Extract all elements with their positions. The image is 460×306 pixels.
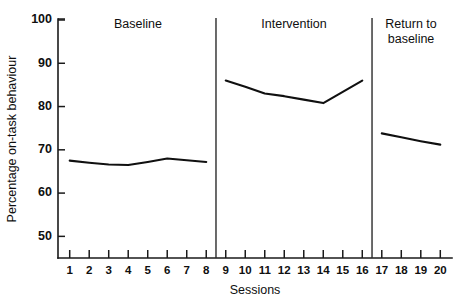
y-axis-title: Percentage on-task behaviour <box>5 56 19 223</box>
y-axis-tick-label: 80 <box>38 99 52 113</box>
line-chart-canvas: 1009080706050123456789101112131415161718… <box>0 0 460 306</box>
phase-label: Return to <box>385 17 436 31</box>
x-axis-tick-label: 18 <box>395 264 408 276</box>
x-axis-tick-label: 11 <box>259 264 272 276</box>
x-axis-tick-label: 10 <box>239 264 252 276</box>
phase-label: baseline <box>388 32 435 46</box>
x-axis-tick-label: 4 <box>125 264 132 276</box>
x-axis-tick-label: 5 <box>145 264 152 276</box>
x-axis-tick-label: 6 <box>164 264 170 276</box>
chart-figure: 1009080706050123456789101112131415161718… <box>0 0 460 306</box>
y-axis-tick-label: 60 <box>38 185 52 199</box>
data-series-line <box>70 158 207 164</box>
x-axis-tick-label: 19 <box>414 264 427 276</box>
phase-label: Intervention <box>261 17 326 31</box>
x-axis-tick-label: 16 <box>356 264 369 276</box>
x-axis-tick-label: 20 <box>434 264 447 276</box>
x-axis-tick-label: 1 <box>66 264 73 276</box>
data-series-line <box>382 133 441 144</box>
y-axis-tick-label: 70 <box>38 142 52 156</box>
x-axis-title: Sessions <box>230 283 281 297</box>
x-axis-tick-label: 7 <box>184 264 190 276</box>
y-axis-tick-label: 50 <box>38 229 52 243</box>
y-axis-tick-label: 100 <box>31 12 52 26</box>
x-axis-tick-label: 9 <box>223 264 229 276</box>
x-axis-tick-label: 2 <box>86 264 92 276</box>
x-axis-tick-label: 8 <box>203 264 210 276</box>
phase-label: Baseline <box>114 17 162 31</box>
x-axis-tick-label: 3 <box>106 264 112 276</box>
x-axis-tick-label: 15 <box>336 264 349 276</box>
x-axis-tick-label: 14 <box>317 264 330 276</box>
y-axis-tick-label: 90 <box>38 56 52 70</box>
x-axis-tick-label: 12 <box>278 264 291 276</box>
data-series-line <box>226 81 363 104</box>
x-axis-tick-label: 17 <box>375 264 388 276</box>
x-axis-tick-label: 13 <box>297 264 310 276</box>
